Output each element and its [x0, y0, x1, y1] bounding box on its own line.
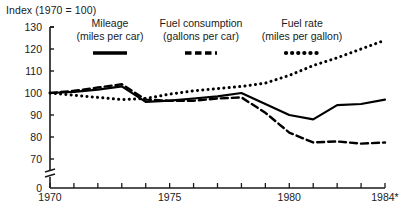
series-line-mileage: [50, 86, 385, 119]
chart-canvas: 1301201101009080700 1970197519801984* Mi…: [0, 0, 412, 217]
y-tick-label-120: 120: [24, 43, 42, 55]
legend-unit-0: (miles per car): [76, 30, 143, 42]
y-tick-label-90: 90: [30, 109, 42, 121]
x-axis: 1970197519801984*: [38, 183, 398, 203]
x-tick-label-1975: 1975: [158, 191, 182, 203]
series-line-fuel-rate: [50, 40, 385, 99]
legend-name-1: Fuel consumption: [160, 17, 243, 29]
y-tick-label-70: 70: [30, 153, 42, 165]
y-tick-label-80: 80: [30, 131, 42, 143]
chart-legend: Mileage(miles per car)Fuel consumption(g…: [76, 17, 342, 53]
y-tick-label-130: 130: [24, 21, 42, 33]
y-tick-label-100: 100: [24, 87, 42, 99]
data-series-group: [50, 40, 385, 143]
legend-name-2: Fuel rate: [281, 17, 323, 29]
x-tick-label-1980: 1980: [278, 191, 302, 203]
series-line-fuel-consumption: [50, 84, 385, 143]
x-tick-label-1984: 1984*: [371, 191, 398, 203]
y-tick-label-110: 110: [25, 65, 42, 77]
legend-name-0: Mileage: [92, 17, 129, 29]
x-tick-label-1970: 1970: [38, 191, 62, 203]
legend-unit-1: (gallons per car): [163, 30, 239, 42]
y-axis: 1301201101009080700: [24, 21, 55, 194]
legend-unit-2: (miles per gallon): [262, 30, 343, 42]
chart-container: Index (1970 = 100) 1301201101009080700 1…: [0, 0, 412, 217]
